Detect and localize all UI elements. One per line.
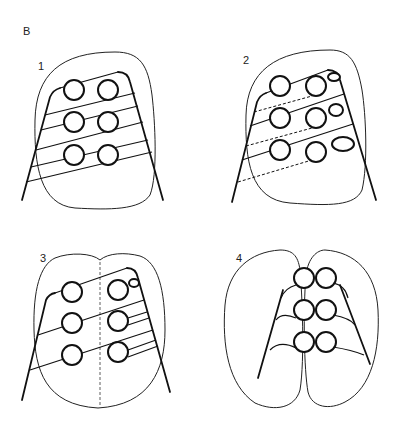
circle xyxy=(64,80,84,100)
circle xyxy=(98,80,118,100)
connector-line xyxy=(36,122,143,150)
circle xyxy=(108,280,128,300)
branch xyxy=(270,344,296,350)
connector-line xyxy=(128,312,147,318)
panel-3: 3 xyxy=(22,252,170,408)
circle xyxy=(294,268,314,288)
trunk-left xyxy=(258,290,283,378)
circle xyxy=(270,108,290,128)
circle xyxy=(306,108,326,128)
cell-outline-right xyxy=(304,250,378,407)
figure-canvas: B 1 2 xyxy=(0,0,399,430)
bud xyxy=(328,73,340,81)
circle xyxy=(316,268,336,288)
trunk-left xyxy=(22,293,55,400)
circle xyxy=(62,282,82,302)
circle xyxy=(306,76,326,96)
circle xyxy=(270,76,290,96)
figure-letter: B xyxy=(23,25,30,37)
connector-line xyxy=(41,106,138,130)
circle xyxy=(108,311,128,331)
circle xyxy=(64,112,84,132)
trunk-right xyxy=(118,72,163,200)
circle xyxy=(270,140,290,160)
branch xyxy=(276,315,296,320)
circle xyxy=(294,332,314,352)
bud xyxy=(129,279,139,287)
connector-line xyxy=(45,93,135,115)
branch xyxy=(333,347,364,355)
circle xyxy=(62,345,82,365)
panel-4: 4 xyxy=(224,250,378,408)
trunk-left xyxy=(232,93,266,202)
cell-outline xyxy=(35,52,155,209)
connector-line xyxy=(30,330,153,370)
circle xyxy=(98,112,118,132)
circle xyxy=(316,332,336,352)
trunk-left xyxy=(22,88,60,200)
connector-line xyxy=(31,140,148,167)
panel-label-1: 1 xyxy=(38,60,44,72)
circle xyxy=(306,142,326,162)
branch xyxy=(333,283,348,298)
bud xyxy=(332,137,354,151)
panel-label-2: 2 xyxy=(243,54,249,66)
panel-2: 2 xyxy=(232,50,376,205)
panel-label-4: 4 xyxy=(236,252,242,264)
circle xyxy=(62,313,82,333)
circle xyxy=(64,145,84,165)
circle xyxy=(294,300,314,320)
trunk-right xyxy=(328,70,376,200)
cell-outline-left xyxy=(224,250,302,408)
circle xyxy=(316,300,336,320)
panel-1: 1 xyxy=(22,52,163,209)
circle xyxy=(98,145,118,165)
panel-label-3: 3 xyxy=(40,252,46,264)
connector-line xyxy=(128,346,158,357)
cell-outline xyxy=(246,50,366,205)
bud xyxy=(329,104,343,116)
connector-line xyxy=(26,152,152,182)
cell-outline-bilobed xyxy=(34,254,165,408)
circle xyxy=(108,342,128,362)
connector-line xyxy=(128,318,149,325)
